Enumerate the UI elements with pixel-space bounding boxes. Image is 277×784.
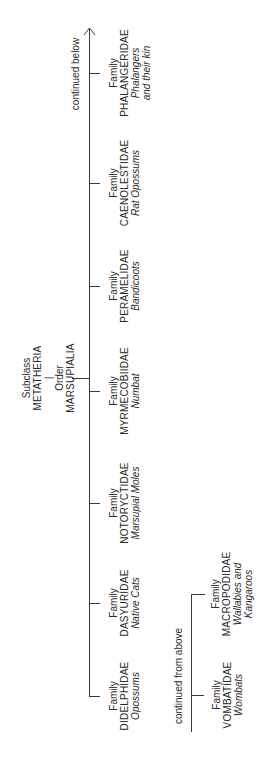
family-label: Family <box>210 552 221 637</box>
family-name: PERAMELIDAE <box>119 249 130 322</box>
common-name: Phalangers <box>130 29 141 117</box>
family-name: PHALANGERIDAE <box>119 29 130 117</box>
arrow-up-icon <box>83 26 96 36</box>
family-name: MYRMECOBIIDAE <box>119 347 130 435</box>
family-label: Family <box>211 662 222 729</box>
family-label: Family <box>108 662 119 731</box>
subclass-name: METATHERIA <box>32 343 43 412</box>
family-name: MACROPODIDAE <box>221 552 232 637</box>
root-label: Subclass METATHERIA | Order MARSUPIALIA <box>21 343 76 412</box>
family-macropodidae: Family MACROPODIDAE Wallabies and Kangar… <box>210 552 254 637</box>
family-dasyuridae: Family DASYURIDAE Native Cats <box>108 569 141 636</box>
subclass-label: Subclass <box>21 343 32 412</box>
family-name: CAENOLESTIDAE <box>119 140 130 227</box>
continued-below-note: continued below <box>70 38 81 110</box>
common-name: Kangaroos <box>243 552 254 637</box>
family-label: Family <box>108 347 119 435</box>
order-label: Order <box>54 343 65 412</box>
family-name: DASYURIDAE <box>119 569 130 636</box>
family-caenolestidae: Family CAENOLESTIDAE Rat Opossums <box>108 140 141 227</box>
tick-myrmecobiidae <box>89 391 100 392</box>
family-label: Family <box>108 29 119 117</box>
tick-notoryctidae <box>89 503 100 504</box>
common-name: Wombats <box>233 662 244 729</box>
family-name: VOMBATIDAE <box>222 662 233 729</box>
continuation-trunk-line <box>191 594 192 732</box>
tick-dasyuridae <box>89 603 100 604</box>
tick-didelphidae <box>89 696 100 697</box>
tick-peramelidae <box>89 286 100 287</box>
subclass-order-dash: | <box>43 343 54 412</box>
family-myrmecobiidae: Family MYRMECOBIIDAE Numbat <box>108 347 141 435</box>
common-name: Marsupial Moles <box>130 462 141 544</box>
common-name: and their kin <box>141 29 152 117</box>
family-label: Family <box>108 569 119 636</box>
family-label: Family <box>108 462 119 544</box>
family-didelphidae: Family DIDELPHIDAE Opossums <box>108 662 141 731</box>
family-name: DIDELPHIDAE <box>119 662 130 731</box>
tick-caenolestidae <box>89 183 100 184</box>
common-name: Wallabies and <box>232 552 243 637</box>
common-name: Bandicoots <box>130 249 141 322</box>
common-name: Rat Opossums <box>130 140 141 227</box>
main-trunk-line <box>89 29 90 697</box>
family-peramelidae: Family PERAMELIDAE Bandicoots <box>108 249 141 322</box>
family-phalangeridae: Family PHALANGERIDAE Phalangers and thei… <box>108 29 152 117</box>
tick-macropodidae <box>191 594 205 595</box>
common-name: Opossums <box>130 662 141 731</box>
continued-from-above-note: continued from above <box>173 628 184 724</box>
family-name: NOTORYCTIDAE <box>119 462 130 544</box>
family-label: Family <box>108 140 119 227</box>
order-name: MARSUPIALIA <box>65 343 76 412</box>
family-vombatidae: Family VOMBATIDAE Wombats <box>211 662 244 729</box>
common-name: Native Cats <box>130 569 141 636</box>
family-notoryctidae: Family NOTORYCTIDAE Marsupial Moles <box>108 462 141 544</box>
common-name: Numbat <box>130 347 141 435</box>
tick-vombatidae <box>191 695 204 696</box>
family-label: Family <box>108 249 119 322</box>
tick-phalangeridae <box>89 73 100 74</box>
